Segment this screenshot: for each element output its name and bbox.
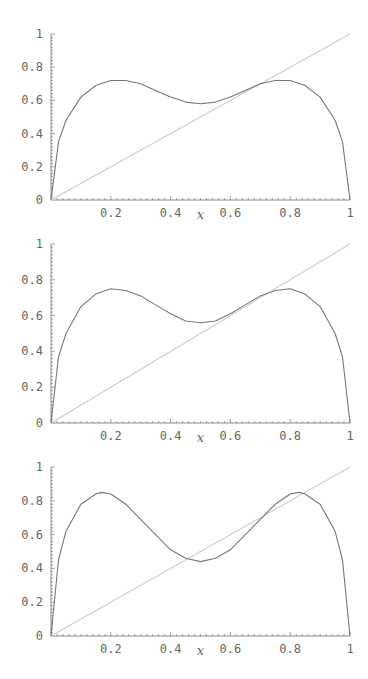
x-tick-label: 0.8	[279, 429, 301, 443]
diagonal-line	[51, 34, 350, 200]
function-curve	[51, 289, 350, 423]
y-tick-label: 0.2	[21, 595, 43, 609]
x-axis-label: x	[197, 643, 205, 658]
x-axis-label: x	[197, 207, 205, 222]
y-tick-label: 0.4	[21, 344, 43, 358]
y-tick-label: 0.8	[21, 60, 43, 74]
x-tick-label: 0.8	[279, 206, 301, 220]
x-tick-label: 0.2	[100, 429, 122, 443]
y-tick-label: 0	[36, 416, 43, 430]
chart-stack: 00.20.40.60.810.20.40.60.81x 00.20.40.60…	[0, 0, 368, 679]
x-tick-label: 0.4	[160, 642, 182, 656]
function-curve	[51, 492, 350, 636]
x-tick-label: 1	[346, 206, 353, 220]
x-tick-label: 0.8	[279, 642, 301, 656]
x-tick-label: 0.6	[220, 642, 242, 656]
y-tick-label: 0	[36, 193, 43, 207]
y-tick-label: 0.8	[21, 494, 43, 508]
y-tick-label: 0	[36, 629, 43, 643]
plot-1: 00.20.40.60.810.20.40.60.81x	[21, 27, 353, 222]
plot-3: 00.20.40.60.810.20.40.60.81x	[21, 460, 353, 658]
diagonal-line	[51, 467, 350, 636]
x-tick-label: 0.6	[220, 206, 242, 220]
x-tick-label: 0.4	[160, 206, 182, 220]
y-tick-label: 1	[36, 27, 43, 41]
y-tick-label: 0.6	[21, 309, 43, 323]
x-tick-label: 1	[346, 429, 353, 443]
y-tick-label: 0.4	[21, 561, 43, 575]
x-tick-label: 0.2	[100, 206, 122, 220]
y-tick-label: 0.8	[21, 273, 43, 287]
y-tick-label: 0.2	[21, 380, 43, 394]
y-tick-label: 0.6	[21, 93, 43, 107]
plot-2: 00.20.40.60.810.20.40.60.81x	[21, 237, 353, 445]
x-axis-label: x	[197, 430, 205, 445]
x-tick-label: 0.2	[100, 642, 122, 656]
y-tick-label: 1	[36, 237, 43, 251]
x-tick-label: 0.4	[160, 429, 182, 443]
function-curve	[51, 81, 350, 201]
x-tick-label: 1	[346, 642, 353, 656]
diagonal-line	[51, 244, 350, 423]
y-tick-label: 0.6	[21, 528, 43, 542]
y-tick-label: 0.4	[21, 127, 43, 141]
x-tick-label: 0.6	[220, 429, 242, 443]
y-tick-label: 0.2	[21, 160, 43, 174]
y-tick-label: 1	[36, 460, 43, 474]
